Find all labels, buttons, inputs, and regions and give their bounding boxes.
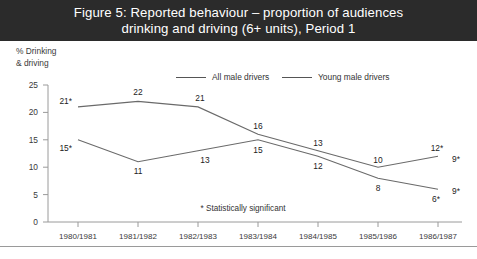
figure-title-line-1: Figure 5: Reported behaviour – proportio… (74, 5, 403, 21)
y-tick-label: 10 (29, 162, 39, 172)
data-label-end-annotation: 9* (452, 186, 461, 196)
x-tick-label: 1984/1985 (299, 232, 337, 241)
y-axis-tick-labels: 25 20 15 10 5 0 (29, 80, 39, 227)
figure-title-line-2: drinking and driving (6+ units), Period … (122, 21, 356, 37)
data-label: 13 (313, 138, 323, 148)
series-line-young-male-drivers (78, 101, 438, 167)
footnote-statistically-significant: * Statistically significant (200, 204, 286, 213)
x-axis-tick-labels: 1980/1981 1981/1982 1982/1983 1983/1984 … (59, 232, 457, 241)
x-tick-label: 1981/1982 (119, 232, 157, 241)
cut-off-caption (18, 250, 318, 259)
data-label-end-annotation: 9* (452, 154, 461, 164)
bottom-divider (0, 246, 477, 247)
data-labels-all-male-drivers: 15* 11 13 15 12 8 6* 9* (59, 143, 460, 204)
x-tick-label: 1983/1984 (239, 232, 277, 241)
y-axis-ticks (43, 85, 48, 222)
data-label: 22 (133, 87, 143, 97)
x-tick-label: 1985/1986 (359, 232, 397, 241)
data-label: 8 (376, 183, 381, 193)
data-label: 13 (200, 155, 210, 165)
x-tick-label: 1986/1987 (419, 232, 457, 241)
x-tick-label: 1982/1983 (179, 232, 217, 241)
plot-svg: 25 20 15 10 5 0 1980/1981 1981/1982 1 (0, 41, 477, 245)
y-tick-label: 0 (33, 217, 38, 227)
figure-container: Figure 5: Reported behaviour – proportio… (0, 0, 477, 259)
data-label: 21* (59, 96, 72, 106)
data-label: 12* (431, 143, 444, 153)
data-label: 15* (59, 143, 72, 153)
y-tick-label: 15 (29, 135, 39, 145)
data-label: 6* (432, 194, 441, 204)
y-tick-label: 25 (29, 80, 39, 90)
figure-title-banner: Figure 5: Reported behaviour – proportio… (0, 0, 477, 41)
data-label: 15 (253, 145, 263, 155)
data-label: 10 (373, 155, 383, 165)
data-label: 21 (195, 93, 205, 103)
data-label: 11 (134, 166, 143, 176)
data-label: 12 (313, 161, 323, 171)
y-tick-label: 20 (29, 107, 39, 117)
x-axis-ticks (78, 222, 438, 227)
x-tick-label: 1980/1981 (59, 232, 97, 241)
y-tick-label: 5 (33, 190, 38, 200)
data-label: 16 (253, 121, 263, 131)
chart-area: % Drinking & driving All male drivers Yo… (0, 41, 477, 245)
